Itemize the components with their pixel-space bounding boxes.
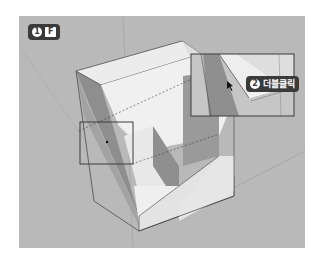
step-1-badge: 1 F — [28, 24, 60, 40]
f-key-icon: F — [45, 27, 56, 37]
double-click-label: 더블클릭 — [263, 78, 295, 90]
step-2-badge: 2 더블클릭 — [246, 76, 299, 92]
axis-guide-left — [19, 46, 89, 146]
3d-model-scene[interactable] — [19, 16, 305, 248]
step-number-2: 2 — [250, 79, 260, 89]
cursor-point-small — [106, 141, 108, 143]
sketchup-viewport[interactable]: 1 F 2 더블클릭 — [19, 16, 305, 248]
step-number-1: 1 — [32, 27, 42, 37]
